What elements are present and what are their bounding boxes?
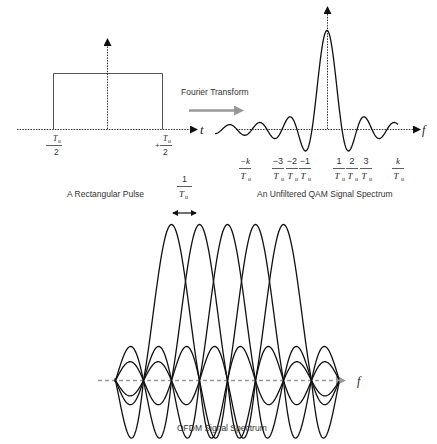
svg-text:−2: −2: [287, 156, 297, 166]
qam-tick-label: kTu: [392, 156, 404, 182]
svg-text:T: T: [300, 171, 306, 181]
svg-text:T: T: [347, 171, 353, 181]
svg-text:u: u: [281, 176, 284, 182]
qam-tick-label: −3Tu: [272, 156, 284, 182]
svg-text:2: 2: [349, 156, 354, 166]
qam-tick-label: 1Tu: [333, 156, 345, 182]
svg-text:T: T: [240, 171, 246, 181]
rect-pulse-caption: A Rectangular Pulse: [67, 189, 144, 199]
ofdm-diagram: t T u 2 + T u 2 A Rectangular Pulse Four…: [0, 0, 437, 444]
qam-tick-label: −1Tu: [299, 156, 311, 182]
svg-text:k: k: [396, 156, 401, 166]
svg-text:T: T: [287, 171, 293, 181]
svg-text:u: u: [308, 176, 311, 182]
f-axis-label: f: [422, 123, 427, 137]
svg-text:1: 1: [336, 156, 341, 166]
qam-tick-labels: −kTu−3Tu−2Tu−1Tu1Tu2Tu3TukTu: [239, 156, 404, 182]
svg-text:T: T: [361, 171, 367, 181]
qam-spectrum-plot: f −kTu−3Tu−2Tu−1Tu1Tu2Tu3TukTu An Unfilt…: [215, 8, 427, 199]
svg-text:u: u: [355, 176, 358, 182]
svg-text:u: u: [369, 176, 372, 182]
svg-text:−1: −1: [300, 156, 310, 166]
svg-text:+: +: [155, 141, 160, 150]
svg-text:−k: −k: [240, 156, 251, 166]
fourier-transform-label: Fourier Transform: [181, 87, 249, 97]
svg-text:2: 2: [54, 147, 59, 157]
ofdm-f-axis-label: f: [357, 374, 362, 388]
right-tick-label: + T u 2: [155, 134, 172, 157]
svg-text:3: 3: [363, 156, 368, 166]
svg-text:T: T: [334, 171, 340, 181]
qam-tick-label: −2Tu: [286, 156, 298, 182]
svg-text:T: T: [273, 171, 279, 181]
subcarrier-spacing-label: 1 T u: [173, 174, 196, 213]
rect-pulse-plot: t T u 2 + T u 2 A Rectangular Pulse: [17, 40, 204, 199]
qam-tick-label: 2Tu: [346, 156, 358, 182]
svg-text:−3: −3: [273, 156, 283, 166]
fourier-transform-arrow: Fourier Transform: [181, 87, 249, 111]
qam-tick-label: 3Tu: [360, 156, 372, 182]
svg-text:u: u: [185, 194, 188, 200]
left-tick-label: T u 2: [46, 134, 62, 157]
subcarrier-curve: [115, 225, 339, 439]
svg-text:1: 1: [182, 174, 187, 184]
qam-spectrum-caption: An Unfiltered QAM Signal Spectrum: [257, 189, 393, 199]
ofdm-spectrum-caption: OFDM Signal Spectrum: [177, 423, 267, 433]
svg-text:u: u: [248, 176, 251, 182]
svg-text:u: u: [295, 176, 298, 182]
svg-text:u: u: [342, 176, 345, 182]
svg-text:u: u: [58, 138, 61, 144]
svg-text:2: 2: [163, 147, 168, 157]
svg-text:T: T: [393, 171, 399, 181]
subcarrier-curves: [115, 225, 339, 439]
t-axis-label: t: [200, 122, 204, 137]
svg-text:u: u: [168, 138, 171, 144]
ofdm-spectrum-plot: 1 T u f OFDM Signal Spectrum: [98, 174, 362, 438]
qam-tick-label: −kTu: [239, 156, 251, 182]
svg-text:u: u: [401, 176, 404, 182]
